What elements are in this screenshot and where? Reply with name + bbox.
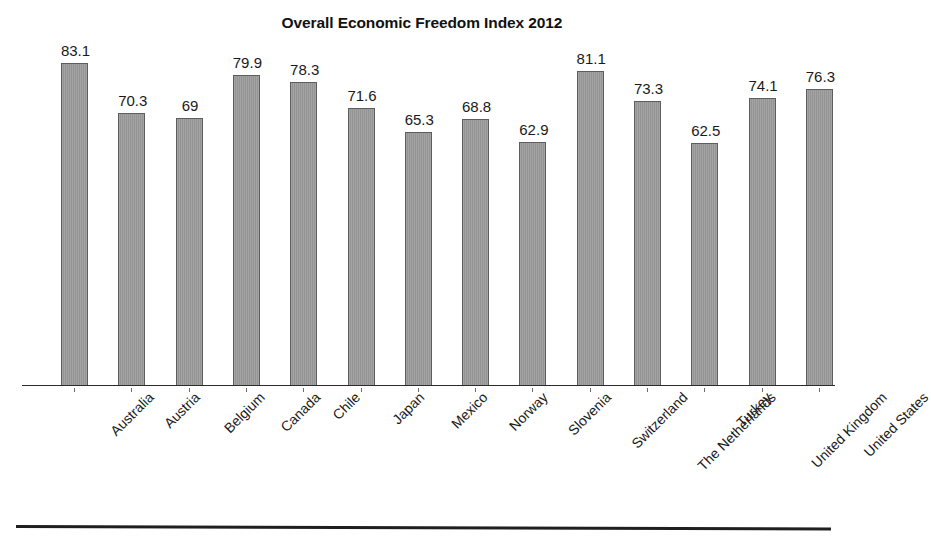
bar-series: 83.170.36979.978.371.665.368.862.981.173… [30, 44, 836, 386]
bar-slovenia[interactable]: 62.9 [505, 44, 562, 386]
bar-rect [634, 101, 661, 386]
bar-value-label: 73.3 [611, 80, 686, 97]
bar-rect [233, 75, 260, 386]
x-axis-tick [131, 388, 132, 392]
bar-value-label: 76.3 [783, 68, 858, 85]
bar-value-label: 69 [153, 97, 228, 114]
bar-canada[interactable]: 79.9 [219, 44, 276, 386]
bar-rect [405, 132, 432, 386]
x-axis-tick [74, 388, 75, 392]
bar-norway[interactable]: 68.8 [448, 44, 505, 386]
x-axis-label-belgium: Belgium [220, 389, 267, 436]
bar-value-label: 83.1 [38, 42, 113, 59]
plot-area: 83.170.36979.978.371.665.368.862.981.173… [30, 44, 836, 386]
x-axis-label-chile: Chile [330, 389, 364, 423]
bar-the-netherlands[interactable]: 73.3 [620, 44, 677, 386]
x-axis-line [22, 385, 835, 386]
bar-value-label: 78.3 [267, 61, 342, 78]
bar-rect [348, 108, 375, 386]
bar-austria[interactable]: 70.3 [104, 44, 161, 386]
bar-value-label: 81.1 [554, 50, 629, 67]
bar-japan[interactable]: 71.6 [334, 44, 391, 386]
x-axis-label-slovenia: Slovenia [565, 389, 614, 438]
x-axis-label-mexico: Mexico [448, 389, 491, 432]
bar-rect [806, 89, 833, 386]
bar-value-label: 62.5 [668, 122, 743, 139]
bar-value-label: 62.9 [496, 121, 571, 138]
bar-belgium[interactable]: 69 [162, 44, 219, 386]
x-axis-tick [246, 388, 247, 392]
x-axis-label-austria: Austria [161, 389, 203, 431]
bar-rect [61, 63, 88, 386]
bar-rect [176, 118, 203, 386]
bar-mexico[interactable]: 65.3 [391, 44, 448, 386]
bar-rect [290, 82, 317, 386]
bar-turkey[interactable]: 62.5 [677, 44, 734, 386]
bar-united-kingdom[interactable]: 74.1 [735, 44, 792, 386]
x-axis-label-canada: Canada [277, 389, 323, 435]
x-axis-tick [590, 388, 591, 392]
x-axis-tick [532, 388, 533, 392]
bar-rect [691, 143, 718, 386]
x-axis-tick [647, 388, 648, 392]
bar-rect [462, 119, 489, 386]
bar-united-states[interactable]: 76.3 [792, 44, 849, 386]
bar-value-label: 68.8 [439, 98, 514, 115]
bar-rect [577, 71, 604, 386]
x-axis-tick [303, 388, 304, 392]
x-axis-tick [819, 388, 820, 392]
bar-rect [519, 142, 546, 386]
bar-rect [749, 98, 776, 386]
x-axis-tick-labels: AustraliaAustriaBelgiumCanadaChileJapanM… [30, 389, 836, 499]
bar-value-label: 71.6 [325, 87, 400, 104]
x-axis-tick [361, 388, 362, 392]
page-footer-rule [16, 525, 831, 531]
x-axis-label-japan: Japan [389, 389, 427, 427]
x-axis-tick [189, 388, 190, 392]
x-axis-tick [704, 388, 705, 392]
x-axis-tick [762, 388, 763, 392]
x-axis-label-switzerland: Switzerland [628, 389, 690, 451]
x-axis-tick [418, 388, 419, 392]
chart-title: Overall Economic Freedom Index 2012 [0, 14, 844, 32]
x-axis-tick [475, 388, 476, 392]
x-axis-label-norway: Norway [506, 389, 551, 434]
x-axis-label-australia: Australia [107, 389, 157, 439]
bar-rect [118, 113, 145, 386]
